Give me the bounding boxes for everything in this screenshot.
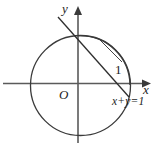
shaded-segment: [80, 20, 156, 62]
origin-label: O: [59, 88, 68, 101]
y-axis-label: y: [62, 2, 68, 15]
line-x-plus-y-equals-1: [58, 17, 129, 97]
y-axis-arrow-icon: [74, 6, 82, 15]
line-equation-label: x+y=1: [112, 96, 144, 108]
figure-canvas: [0, 0, 156, 149]
hatch-lines: [80, 20, 156, 62]
math-figure: y x O 1 x+y=1: [0, 0, 156, 149]
x-intercept-label: 1: [115, 63, 122, 76]
segment-arc: [79, 36, 131, 85]
